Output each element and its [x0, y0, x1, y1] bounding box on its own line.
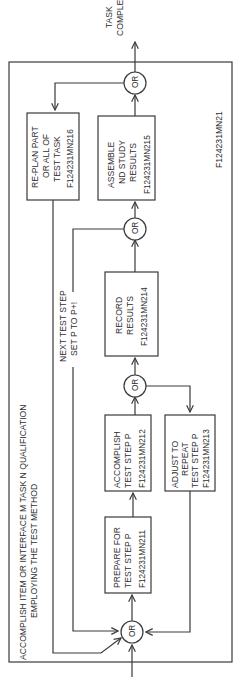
- figure-id: F124231MN21: [214, 111, 224, 168]
- svg-text:TEST STEP P: TEST STEP P: [190, 433, 200, 488]
- svg-text:RECORD: RECORD: [114, 297, 124, 334]
- svg-text:F124231MN215: F124231MN215: [143, 135, 152, 194]
- svg-text:COMPLETE: COMPLETE: [115, 0, 125, 36]
- svg-text:F124231MN211: F124231MN211: [138, 529, 147, 588]
- svg-text:F124231MN213: F124231MN213: [202, 429, 211, 488]
- box-replan: RE-PLAN PART OR ALL OF TEST TASK F124231…: [27, 113, 79, 200]
- svg-text:F124231MN212: F124231MN212: [138, 429, 147, 488]
- box-accomplish: ACCOMPLISH TEST STEP P F124231MN212: [105, 415, 151, 491]
- svg-text:RESULTS: RESULTS: [128, 143, 138, 182]
- svg-text:ASSEMBLE: ASSEMBLE: [106, 141, 116, 188]
- svg-text:TEST TASK: TEST TASK: [52, 136, 62, 182]
- arrow-adjust-to-or: [146, 491, 190, 632]
- box-record: RECORD RESULTS F124231MN214: [105, 272, 158, 356]
- diagram-title: ACCOMPLISH ITEM OR INTERFACE M TASK N QU…: [18, 405, 39, 660]
- box-adjust: ADJUST TO REPEAT TEST STEP P F124231MN21…: [165, 415, 215, 491]
- or-gate-entry: OR: [121, 621, 143, 643]
- box-assemble: ASSEMBLE ND STUDY RESULTS F124231MN215: [98, 116, 155, 200]
- arrow-to-adjust: [146, 386, 190, 412]
- svg-text:F124231MN214: F124231MN214: [140, 287, 149, 346]
- svg-text:SET P TO P+!: SET P TO P+!: [69, 302, 79, 356]
- box-prepare: PREPARE FOR TEST STEP P F124231MN211: [105, 517, 151, 593]
- svg-text:TEST STEP P: TEST STEP P: [123, 433, 133, 488]
- svg-text:RE-PLAN PART: RE-PLAN PART: [30, 125, 40, 188]
- arrow-to-replan: [55, 83, 124, 110]
- svg-text:NEXT TEST STEP: NEXT TEST STEP: [58, 290, 68, 362]
- svg-text:F124231MN216: F124231MN216: [66, 129, 75, 188]
- or-gate-after-accomplish: OR: [124, 375, 146, 397]
- svg-text:ND STUDY: ND STUDY: [117, 140, 127, 184]
- svg-text:RESULTS: RESULTS: [125, 296, 135, 335]
- svg-text:ADJUST TO: ADJUST TO: [170, 440, 180, 488]
- svg-text:OR: OR: [128, 625, 137, 637]
- flow-diagram: ACCOMPLISH ITEM OR INTERFACE M TASK N QU…: [0, 0, 237, 696]
- svg-text:REPEAT: REPEAT: [180, 442, 190, 476]
- or-gate-after-record: OR: [124, 218, 146, 240]
- svg-text:F124231MN21: F124231MN21: [214, 111, 224, 168]
- task-complete-label: TASK COMPLETE: [104, 0, 125, 36]
- svg-text:PREPARE FOR: PREPARE FOR: [112, 527, 122, 588]
- svg-text:OR: OR: [131, 379, 140, 391]
- svg-text:EMPLOYING THE TEST METHOD: EMPLOYING THE TEST METHOD: [29, 484, 39, 618]
- svg-text:TASK: TASK: [104, 6, 114, 28]
- svg-text:ACCOMPLISH ITEM OR INTERFACE M: ACCOMPLISH ITEM OR INTERFACE M TASK N QU…: [18, 405, 28, 660]
- svg-text:ACCOMPLISH: ACCOMPLISH: [112, 431, 122, 488]
- svg-text:OR: OR: [131, 222, 140, 234]
- svg-text:OR ALL OF: OR ALL OF: [41, 134, 51, 178]
- svg-text:OR: OR: [131, 76, 140, 88]
- or-gate-final: OR: [124, 72, 146, 94]
- svg-text:TEST STEP P: TEST STEP P: [123, 533, 133, 588]
